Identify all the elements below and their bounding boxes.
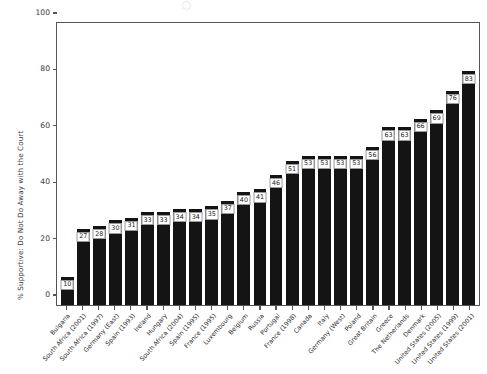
- y-axis-tick-label: 40: [40, 177, 50, 187]
- bar-slot: 46: [268, 23, 284, 305]
- bar-slot: 33: [140, 23, 156, 305]
- x-axis-tick-mark: [340, 306, 341, 310]
- x-axis-tick-mark: [227, 306, 228, 310]
- x-axis-label: Italy: [315, 312, 329, 327]
- bar[interactable]: 33: [157, 212, 170, 305]
- bar-slot: 69: [429, 23, 445, 305]
- x-axis-tick-mark: [324, 306, 325, 310]
- x-axis-tick-mark: [421, 306, 422, 310]
- bar-value-label: 66: [414, 122, 427, 132]
- x-axis-tick-mark: [82, 306, 83, 310]
- bar[interactable]: 10: [61, 277, 74, 305]
- bar[interactable]: 51: [286, 161, 299, 305]
- bar[interactable]: 63: [382, 127, 395, 305]
- x-axis-tick-mark: [179, 306, 180, 310]
- bar-value-label: 10: [61, 280, 74, 290]
- x-axis-label-slot: Spain (1993): [123, 311, 139, 374]
- y-axis-tick-label: 0: [45, 290, 50, 300]
- bar-slot: 28: [91, 23, 107, 305]
- bar-slot: 41: [252, 23, 268, 305]
- bar-slot: 34: [172, 23, 188, 305]
- x-axis-tick-mark: [372, 306, 373, 310]
- x-axis-tick-mark: [163, 306, 164, 310]
- bar-slot: 53: [332, 23, 348, 305]
- bar-series: 1027283031333334343537404146515353535356…: [57, 23, 479, 305]
- x-axis-tick-mark: [130, 306, 131, 310]
- bar-value-label: 35: [205, 209, 218, 219]
- x-axis-tick-mark: [437, 306, 438, 310]
- bar-value-label: 33: [141, 215, 154, 225]
- x-axis-tick-mark: [405, 306, 406, 310]
- bar-value-label: 63: [382, 130, 395, 140]
- bar-value-label: 40: [237, 195, 250, 205]
- x-axis-tick-mark: [388, 306, 389, 310]
- bar[interactable]: 63: [398, 127, 411, 305]
- x-axis-tick-mark: [469, 306, 470, 310]
- bar-slot: 53: [316, 23, 332, 305]
- bar[interactable]: 53: [302, 156, 315, 305]
- bar[interactable]: 83: [462, 71, 475, 305]
- bar-slot: 56: [364, 23, 380, 305]
- bar[interactable]: 53: [318, 156, 331, 305]
- bar-value-label: 33: [157, 215, 170, 225]
- x-axis-tick-mark: [259, 306, 260, 310]
- bar-value-label: 56: [366, 150, 379, 160]
- bar-slot: 27: [75, 23, 91, 305]
- bar[interactable]: 37: [221, 201, 234, 305]
- bar-slot: 34: [188, 23, 204, 305]
- bar-slot: 63: [380, 23, 396, 305]
- x-axis-tick-mark: [211, 306, 212, 310]
- bar[interactable]: 31: [125, 218, 138, 305]
- bar-value-label: 30: [109, 223, 122, 233]
- x-axis-tick-mark: [292, 306, 293, 310]
- bar-value-label: 83: [462, 74, 475, 84]
- bar-value-label: 63: [398, 130, 411, 140]
- bar-value-label: 37: [221, 204, 234, 214]
- bar-slot: 53: [348, 23, 364, 305]
- bar[interactable]: 53: [350, 156, 363, 305]
- bar[interactable]: 27: [77, 229, 90, 305]
- y-axis-tick-mark: [53, 12, 57, 13]
- bar[interactable]: 28: [93, 226, 106, 305]
- bar[interactable]: 53: [334, 156, 347, 305]
- bar-value-label: 53: [302, 159, 315, 169]
- bar[interactable]: 56: [366, 147, 379, 305]
- bar[interactable]: 35: [205, 206, 218, 305]
- bar-value-label: 34: [189, 212, 202, 222]
- x-axis-label-slot: France (1998): [284, 311, 300, 374]
- x-axis-tick-mark: [98, 306, 99, 310]
- x-axis-tick-mark: [66, 306, 67, 310]
- bar[interactable]: 33: [141, 212, 154, 305]
- bar-value-label: 31: [125, 221, 138, 231]
- y-axis-tick-label: 80: [40, 64, 50, 74]
- bar-value-label: 53: [350, 159, 363, 169]
- y-axis-tick-label: 20: [40, 234, 50, 244]
- bar-value-label: 51: [286, 164, 299, 174]
- bar[interactable]: 30: [109, 220, 122, 305]
- bar-value-label: 76: [446, 94, 459, 104]
- bar[interactable]: 69: [430, 110, 443, 305]
- bar-chart: % Supportive: Do Not Do Away with the Co…: [0, 0, 487, 374]
- bar-value-label: 34: [173, 212, 186, 222]
- bar-slot: 31: [123, 23, 139, 305]
- x-axis-tick-mark: [243, 306, 244, 310]
- bar[interactable]: 41: [254, 189, 267, 305]
- bar[interactable]: 40: [237, 192, 250, 305]
- bar-slot: 33: [156, 23, 172, 305]
- bar-slot: 76: [445, 23, 461, 305]
- bar-value-label: 27: [77, 232, 90, 242]
- bar-slot: 53: [300, 23, 316, 305]
- y-axis-tick-label: 100: [36, 8, 51, 18]
- bar[interactable]: 76: [446, 91, 459, 305]
- bar-slot: 63: [397, 23, 413, 305]
- scan-artifact: [182, 1, 191, 10]
- bar-value-label: 69: [430, 113, 443, 123]
- bar-slot: 83: [461, 23, 477, 305]
- x-axis-labels: BulgariaSouth Africa (2001)South Africa …: [56, 311, 480, 374]
- bar[interactable]: 66: [414, 119, 427, 305]
- bar[interactable]: 34: [173, 209, 186, 305]
- bar-value-label: 46: [270, 178, 283, 188]
- bar[interactable]: 34: [189, 209, 202, 305]
- x-axis-label-slot: United States (2001): [462, 311, 478, 374]
- bar[interactable]: 46: [270, 175, 283, 305]
